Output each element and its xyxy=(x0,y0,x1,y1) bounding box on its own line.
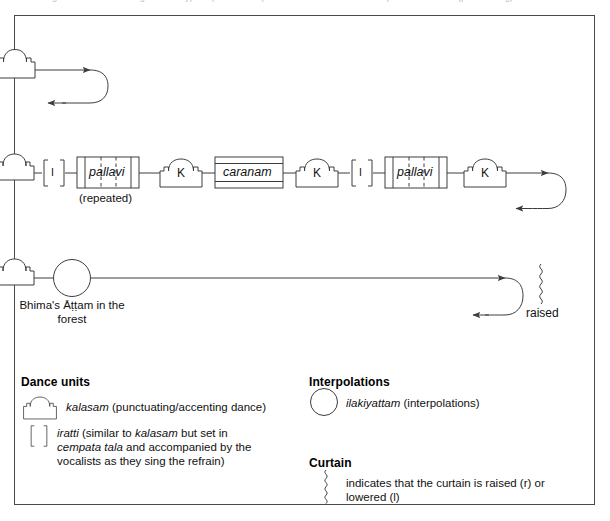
legend-item-iratti: iratti (similar to kalasam but set in ce… xyxy=(57,426,267,468)
repeated-note-1: (repeated) xyxy=(79,192,132,204)
legend-desc-ilakiyattam: (interpolations) xyxy=(400,397,479,409)
legend-item-ilakiyattam: ilakiyattam (interpolations) xyxy=(346,396,586,410)
iratti-label-1: I xyxy=(51,166,54,178)
legend-heading-curtain: Curtain xyxy=(309,456,352,470)
kalasam-label-3: K xyxy=(481,166,489,180)
legend-heading-dance-units: Dance units xyxy=(21,375,90,389)
section-label-pallavi-2: pallavi xyxy=(397,165,432,179)
legend-desc-iratti-pre: (similar to xyxy=(79,427,135,439)
section-label-caranam: caranam xyxy=(223,165,272,179)
iratti-label-2: I xyxy=(359,166,362,178)
curtain-raised-label: raised xyxy=(526,306,559,320)
legend-heading-interpolations: Interpolations xyxy=(309,375,390,389)
legend-desc-kalasam: (punctuating/accenting dance) xyxy=(109,401,266,413)
legend-term-iratti: iratti xyxy=(57,427,79,439)
legend-desc-iratti-mid: but set in xyxy=(178,427,228,439)
section-label-pallavi-1: pallavi xyxy=(89,165,124,179)
interpolation-circle-label: Bhima's Āṭṭam in the forest xyxy=(12,299,132,326)
legend-term-kalasam: kalasam xyxy=(66,401,109,413)
legend-term-ilakiyattam: ilakiyattam xyxy=(346,397,400,409)
legend-desc-curtain: indicates that the curtain is raised (r)… xyxy=(346,476,586,504)
legend-desc-iratti-em: kalasam xyxy=(135,427,178,439)
kalasam-label-2: K xyxy=(313,166,321,180)
legend-item-kalasam: kalasam (punctuating/accenting dance) xyxy=(66,400,294,414)
kalasam-label-1: K xyxy=(177,166,185,180)
legend-desc-iratti-em2: cempata tala xyxy=(57,441,123,453)
